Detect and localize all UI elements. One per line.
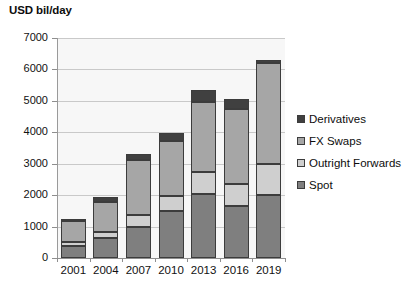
- bar-segment-spot: [61, 246, 86, 258]
- bar-group: [256, 38, 281, 258]
- x-tick-mark: [122, 258, 123, 262]
- bar-segment-spot: [93, 238, 118, 258]
- bar-segment-derivatives: [159, 133, 184, 141]
- bar-segment-fx-swaps: [126, 160, 151, 215]
- bar-group: [126, 38, 151, 258]
- bar-segment-outright-forwards: [126, 215, 151, 226]
- y-tick-mark: [52, 132, 57, 133]
- bar-segment-fx-swaps: [159, 141, 184, 196]
- legend-label: Outright Forwards: [309, 157, 401, 169]
- y-tick-label: 0: [2, 252, 48, 263]
- bar-group: [93, 38, 118, 258]
- y-tick-label: 3000: [2, 158, 48, 169]
- y-tick-label: 2000: [2, 189, 48, 200]
- x-tick-mark: [90, 258, 91, 262]
- bar-segment-fx-swaps: [191, 102, 216, 172]
- y-tick-label: 4000: [2, 126, 48, 137]
- bar-group: [224, 38, 249, 258]
- bar-segment-outright-forwards: [93, 232, 118, 239]
- y-tick-mark: [52, 69, 57, 70]
- bar-group: [61, 38, 86, 258]
- x-tick-mark: [220, 258, 221, 262]
- legend-label: FX Swaps: [309, 135, 361, 147]
- bar-segment-outright-forwards: [224, 184, 249, 206]
- bar-segment-spot: [256, 195, 281, 258]
- bar-segment-fx-swaps: [224, 109, 249, 184]
- bar-segment-outright-forwards: [191, 172, 216, 193]
- y-axis-title: USD bil/day: [9, 4, 72, 16]
- chart-legend: DerivativesFX SwapsOutright ForwardsSpot: [297, 108, 415, 196]
- y-tick-label: 7000: [2, 32, 48, 43]
- legend-label: Derivatives: [309, 113, 366, 125]
- bar-segment-fx-swaps: [256, 63, 281, 164]
- x-tick-mark: [252, 258, 253, 262]
- bar-group: [159, 38, 184, 258]
- bar-segment-derivatives: [191, 90, 216, 103]
- y-tick-label: 1000: [2, 221, 48, 232]
- bar-chart: USD bil/day 7000600050004000300020001000…: [0, 0, 418, 284]
- bar-segment-outright-forwards: [61, 242, 86, 246]
- bar-segment-outright-forwards: [256, 164, 281, 195]
- bar-segment-derivatives: [93, 197, 118, 201]
- legend-swatch-icon: [297, 159, 305, 167]
- y-tick-mark: [52, 101, 57, 102]
- bar-segment-spot: [126, 227, 151, 258]
- legend-item-derivatives[interactable]: Derivatives: [297, 108, 415, 130]
- legend-label: Spot: [309, 179, 333, 191]
- y-tick-label: 5000: [2, 95, 48, 106]
- bar-segment-spot: [224, 206, 249, 258]
- legend-swatch-icon: [297, 137, 305, 145]
- bar-group: [191, 38, 216, 258]
- legend-swatch-icon: [297, 115, 305, 123]
- bar-segment-derivatives: [126, 154, 151, 160]
- y-tick-mark: [52, 227, 57, 228]
- legend-item-outright-forwards[interactable]: Outright Forwards: [297, 152, 415, 174]
- y-tick-mark: [52, 195, 57, 196]
- legend-item-spot[interactable]: Spot: [297, 174, 415, 196]
- x-tick-mark: [285, 258, 286, 262]
- x-tick-mark: [57, 258, 58, 262]
- bar-segment-derivatives: [224, 99, 249, 110]
- bar-segment-spot: [159, 211, 184, 258]
- y-tick-mark: [52, 38, 57, 39]
- bar-segment-derivatives: [61, 219, 86, 221]
- legend-swatch-icon: [297, 181, 305, 189]
- y-tick-mark: [52, 164, 57, 165]
- bar-segment-spot: [191, 194, 216, 258]
- x-tick-mark: [155, 258, 156, 262]
- bar-segment-fx-swaps: [93, 202, 118, 232]
- bar-segment-derivatives: [256, 60, 281, 63]
- bar-segment-outright-forwards: [159, 196, 184, 211]
- bar-segment-fx-swaps: [61, 221, 86, 241]
- x-tick-mark: [187, 258, 188, 262]
- y-tick-label: 6000: [2, 63, 48, 74]
- x-tick-label: 2019: [249, 264, 289, 277]
- legend-item-fx-swaps[interactable]: FX Swaps: [297, 130, 415, 152]
